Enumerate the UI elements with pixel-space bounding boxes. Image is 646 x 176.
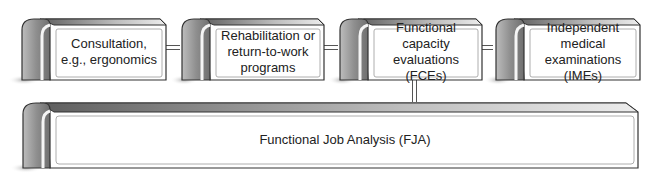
box-label-rehabilitation: Rehabilitation or return-to-work program… xyxy=(214,26,322,78)
label-line: examinations (IMEs) xyxy=(528,52,638,84)
label-line: Rehabilitation or xyxy=(221,28,315,44)
label-line: Functional capacity xyxy=(372,20,480,52)
label-line: e.g., ergonomics xyxy=(61,52,157,68)
label-line: return-to-work xyxy=(221,44,315,60)
box-label-fce: Functional capacity evaluations (FCEs) xyxy=(372,26,480,78)
label-line: Functional Job Analysis (FJA) xyxy=(259,132,430,148)
label-line: Consultation, xyxy=(61,36,157,52)
fja-diagram: Consultation, e.g., ergonomics Rehabilit… xyxy=(0,0,646,176)
label-line: Independent medical xyxy=(528,20,638,52)
label-line: programs xyxy=(221,60,315,76)
box-consultation: Consultation, e.g., ergonomics xyxy=(10,14,166,86)
box-fja: Functional Job Analysis (FJA) xyxy=(10,98,640,174)
box-fce: Functional capacity evaluations (FCEs) xyxy=(328,14,482,86)
box-ime: Independent medical examinations (IMEs) xyxy=(484,14,640,86)
box-label-ime: Independent medical examinations (IMEs) xyxy=(528,26,638,78)
box-label-fja: Functional Job Analysis (FJA) xyxy=(54,114,636,166)
label-line: evaluations (FCEs) xyxy=(372,52,480,84)
box-rehabilitation: Rehabilitation or return-to-work program… xyxy=(170,14,324,86)
box-label-consultation: Consultation, e.g., ergonomics xyxy=(54,26,164,78)
